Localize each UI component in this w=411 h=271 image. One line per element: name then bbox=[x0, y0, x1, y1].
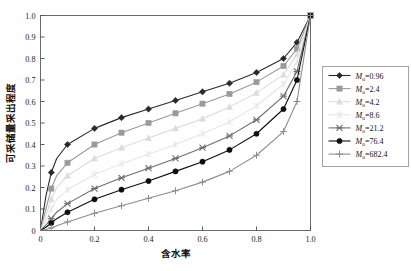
series-marker bbox=[119, 130, 124, 135]
series-marker bbox=[92, 142, 97, 147]
series-marker bbox=[227, 91, 232, 96]
y-tick-label: 0.7 bbox=[25, 76, 35, 85]
chart-canvas: 00.20.40.60.81.000.10.20.30.40.50.60.70.… bbox=[0, 0, 411, 271]
y-tick-label: 0.3 bbox=[25, 162, 35, 171]
legend-value: =76.4 bbox=[365, 137, 384, 146]
legend-marker bbox=[337, 138, 342, 143]
x-tick-label: 0 bbox=[38, 235, 42, 244]
y-axis-title: 可采储量采出程度 bbox=[5, 83, 16, 163]
series-marker bbox=[92, 197, 97, 202]
y-tick-label: 0.9 bbox=[25, 33, 35, 42]
legend-label: Mo=4.2 bbox=[355, 98, 380, 108]
legend-label: Mo=682.4 bbox=[355, 150, 388, 160]
legend-value: =4.2 bbox=[365, 98, 380, 107]
series-marker bbox=[200, 101, 205, 106]
series-marker bbox=[49, 186, 54, 191]
x-tick-label: 0.6 bbox=[197, 235, 207, 244]
y-tick-label: 0 bbox=[31, 227, 35, 236]
y-tick-label: 1.0 bbox=[25, 12, 35, 21]
series-marker bbox=[146, 178, 151, 183]
x-tick-label: 0.2 bbox=[89, 235, 99, 244]
legend-label: Mo=2.4 bbox=[355, 85, 380, 95]
legend: Mo=0.96Mo=2.4Mo=4.2Mo=8.6Mo=21.2Mo=76.4M… bbox=[323, 67, 409, 167]
series-marker bbox=[119, 187, 124, 192]
legend-marker bbox=[337, 86, 342, 91]
y-tick-label: 0.8 bbox=[25, 55, 35, 64]
series-marker bbox=[281, 106, 286, 111]
legend-label: Mo=21.2 bbox=[355, 124, 384, 134]
legend-label: Mo=8.6 bbox=[355, 111, 380, 121]
plot-frame bbox=[41, 16, 311, 231]
series-marker bbox=[65, 210, 70, 215]
x-tick-label: 0.8 bbox=[251, 235, 261, 244]
series-marker bbox=[173, 111, 178, 116]
series-marker bbox=[254, 131, 259, 136]
y-tick-label: 0.1 bbox=[25, 205, 35, 214]
series-marker bbox=[65, 160, 70, 165]
series-marker bbox=[254, 80, 259, 85]
legend-value: =8.6 bbox=[365, 111, 380, 120]
series-marker bbox=[146, 120, 151, 125]
y-tick-label: 0.2 bbox=[25, 184, 35, 193]
series-marker bbox=[281, 63, 286, 68]
x-tick-label: 1.0 bbox=[305, 235, 315, 244]
series-marker bbox=[200, 159, 205, 164]
x-tick-label: 0.4 bbox=[143, 235, 153, 244]
x-axis-title: 含水率 bbox=[160, 248, 191, 259]
legend-value: =21.2 bbox=[365, 124, 384, 133]
series-marker bbox=[173, 169, 178, 174]
series-marker bbox=[227, 147, 232, 152]
legend-value: =0.96 bbox=[365, 72, 384, 81]
y-tick-label: 0.6 bbox=[25, 98, 35, 107]
legend-value: =2.4 bbox=[365, 85, 380, 94]
series-marker bbox=[294, 77, 299, 82]
chart-figure: 00.20.40.60.81.000.10.20.30.40.50.60.70.… bbox=[0, 0, 411, 271]
legend-label: Mo=76.4 bbox=[355, 137, 384, 147]
legend-label: Mo=0.96 bbox=[355, 72, 384, 82]
y-tick-label: 0.5 bbox=[25, 119, 35, 128]
legend-value: =682.4 bbox=[365, 150, 388, 159]
y-tick-label: 0.4 bbox=[25, 141, 35, 150]
